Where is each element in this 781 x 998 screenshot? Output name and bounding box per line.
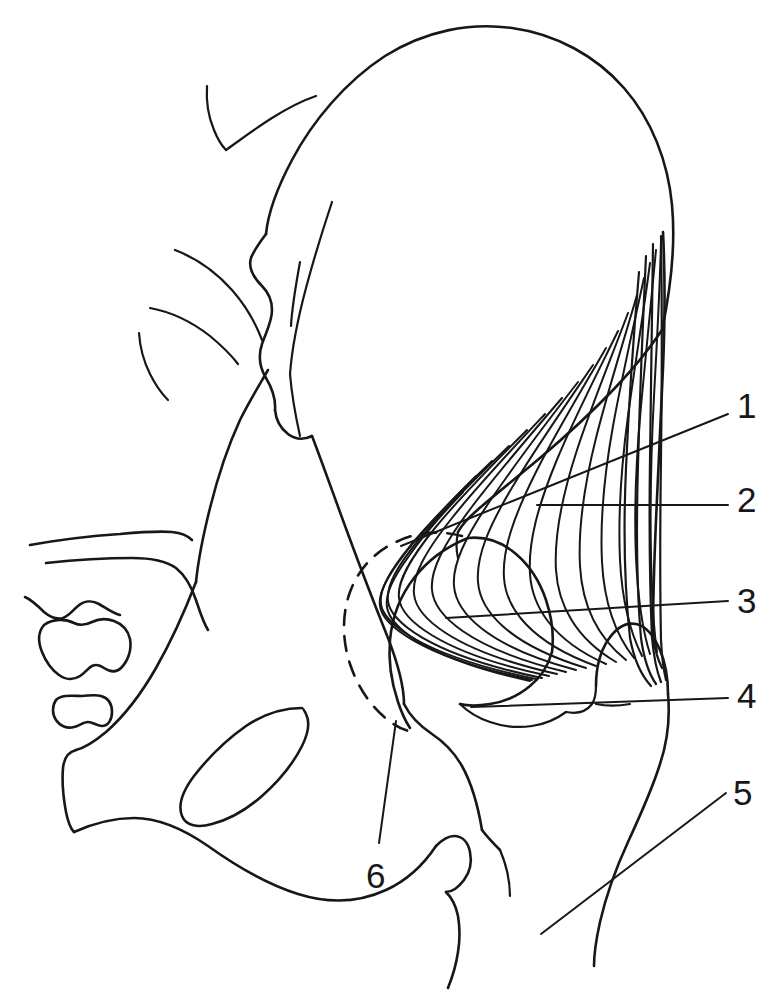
obturator-foramen-outline — [181, 708, 309, 826]
lesser-trochanter-outline — [446, 892, 460, 988]
ilium-anterior-border — [196, 370, 268, 582]
anatomical-figure: 1 2 3 4 5 6 — [0, 0, 781, 998]
femoral-shaft-medial-continuation — [500, 850, 510, 896]
ischial-ramus-left-edge — [63, 750, 76, 832]
greater-trochanter-base — [566, 686, 596, 713]
muscle-fiber — [454, 382, 578, 670]
label-number-4: 4 — [737, 678, 756, 713]
iliac-crest-outline — [266, 26, 673, 330]
label-number-3: 3 — [737, 583, 756, 618]
coccyx-segment-top — [25, 597, 120, 619]
label-number-5: 5 — [733, 775, 752, 810]
ischial-body-right-edge — [404, 704, 482, 830]
label-number-6: 6 — [366, 858, 385, 893]
gluteal-muscle-lower-border — [457, 532, 459, 558]
femoral-shaft-medial-border — [482, 830, 500, 850]
femoral-shaft-lateral-border — [594, 694, 669, 966]
trochanter-inferior-edge — [596, 704, 630, 706]
coccyx-segment-bottom — [53, 695, 112, 728]
iliac-spine-tip-outline — [275, 410, 312, 439]
ischial-tuberosity-outline — [436, 836, 471, 892]
leader-line-1 — [401, 414, 728, 546]
sacrum-upper-outline — [30, 532, 192, 545]
leader-line-5 — [541, 793, 726, 934]
muscle-fiber — [414, 414, 557, 674]
muscle-fiber — [530, 331, 618, 664]
iliac-fossa-ridge-lower — [290, 374, 300, 436]
coccyx-segment-middle — [39, 619, 130, 679]
muscle-fiber — [432, 398, 566, 672]
label-number-2: 2 — [737, 482, 756, 517]
sacrum-lower-outline — [46, 558, 208, 630]
gluteal-line-arc-3 — [139, 333, 168, 400]
muscle-fiber — [478, 365, 593, 668]
anatomy-line-drawing — [0, 0, 781, 998]
gluteus-medius-fibers — [380, 241, 661, 681]
muscle-fiber — [504, 348, 606, 666]
gluteal-line-arc-2 — [150, 308, 238, 364]
leader-line-6 — [379, 721, 396, 843]
label-number-1: 1 — [737, 388, 756, 423]
iliac-tubercle-mark-1 — [207, 86, 226, 150]
